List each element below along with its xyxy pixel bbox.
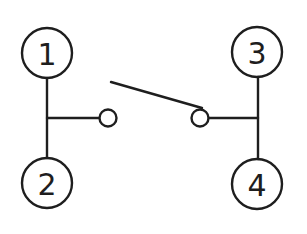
right-terminal-group: 3 4: [192, 27, 283, 209]
terminal-1-label: 1: [37, 37, 56, 72]
switch-diagram: 1 2 3 4: [0, 0, 307, 234]
terminal-4-label: 4: [247, 168, 266, 203]
terminal-2-label: 2: [37, 167, 56, 202]
terminal-3-label: 3: [247, 36, 266, 71]
left-contact-icon: [100, 110, 117, 127]
left-terminal-group: 1 2: [22, 28, 117, 208]
switch-lever: [111, 82, 202, 108]
right-contact-icon: [192, 110, 209, 127]
